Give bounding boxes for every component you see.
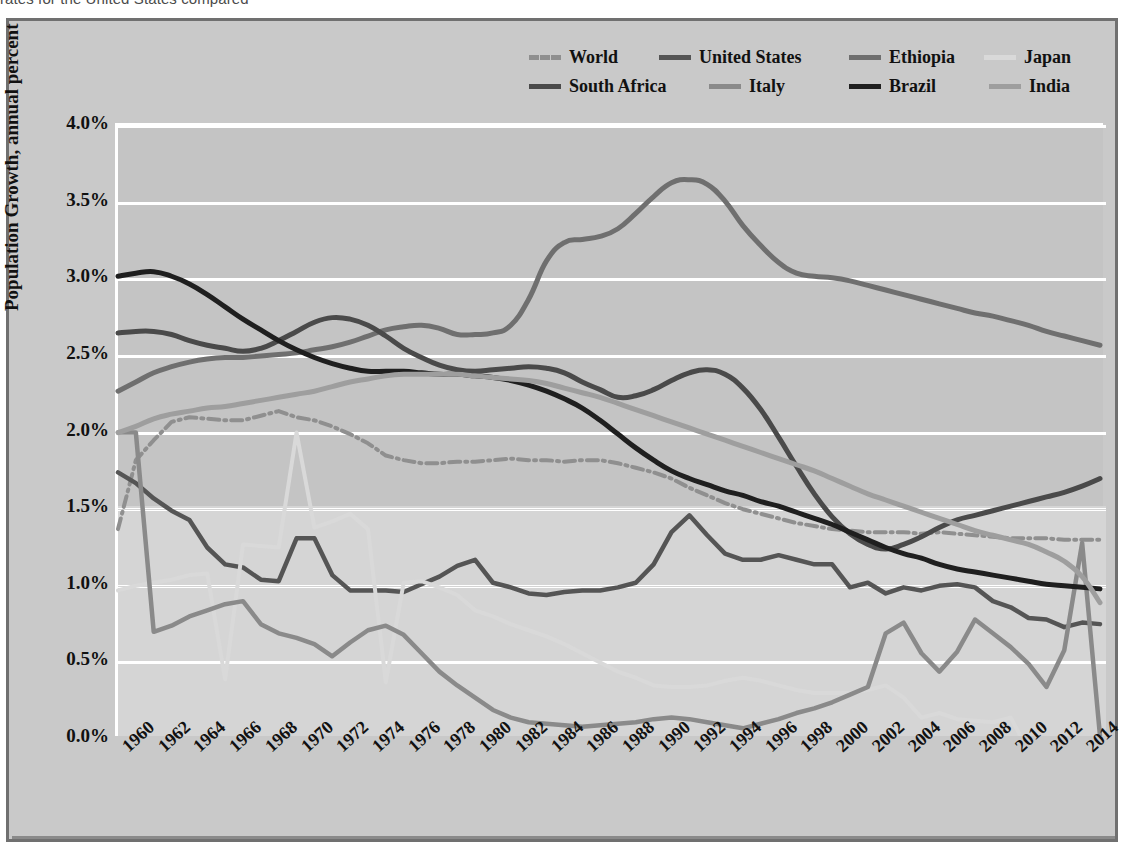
legend-label: United States — [699, 47, 802, 68]
y-tick-label: 0.5% — [66, 648, 109, 670]
line-series-united-states — [118, 472, 1100, 627]
chart-legend: WorldUnited StatesEthiopiaJapan South Af… — [529, 43, 1109, 101]
y-tick-label: 1.5% — [66, 495, 109, 517]
y-tick-label: 3.5% — [66, 189, 109, 211]
y-tick-label: 0.0% — [66, 725, 109, 747]
legend-label: Italy — [749, 76, 785, 97]
legend-swatch-icon — [529, 55, 561, 60]
legend-label: Ethiopia — [889, 47, 955, 68]
legend-label: India — [1029, 76, 1070, 97]
figure-caption-strip: rates for the United States compared — [0, 0, 1129, 16]
legend-swatch-icon — [659, 55, 691, 60]
plot-wrapper — [115, 123, 1103, 736]
legend-row-1: WorldUnited StatesEthiopiaJapan — [529, 43, 1109, 72]
legend-item-ethiopia[interactable]: Ethiopia — [849, 47, 984, 68]
axis-baseline — [12, 836, 1115, 839]
legend-item-south-africa[interactable]: South Africa — [529, 76, 709, 97]
y-tick-label: 1.0% — [66, 572, 109, 594]
y-tick-label: 3.0% — [66, 265, 109, 287]
legend-swatch-icon — [849, 84, 881, 89]
y-axis-title: Population Growth, annual percent — [1, 23, 23, 311]
line-series-brazil — [118, 271, 1100, 588]
series-lines — [115, 123, 1103, 736]
legend-swatch-icon — [529, 84, 561, 89]
line-series-ethiopia — [118, 180, 1100, 392]
legend-swatch-icon — [849, 55, 881, 60]
legend-item-world[interactable]: World — [529, 47, 659, 68]
legend-label: World — [569, 47, 618, 68]
line-series-south-africa — [118, 317, 1100, 549]
y-tick-label: 2.0% — [66, 419, 109, 441]
x-axis-ticks: 1960196219641966196819701972197419761978… — [115, 741, 1103, 837]
legend-swatch-icon — [984, 55, 1016, 60]
legend-row-2: South AfricaItalyBrazilIndia — [529, 72, 1109, 101]
legend-swatch-icon — [989, 84, 1021, 89]
y-tick-label: 2.5% — [66, 342, 109, 364]
legend-label: South Africa — [569, 76, 667, 97]
y-axis-ticks: 0.0%0.5%1.0%1.5%2.0%2.5%3.0%3.5%4.0% — [27, 123, 109, 736]
legend-label: Brazil — [889, 76, 936, 97]
y-tick-label: 4.0% — [66, 112, 109, 134]
legend-item-india[interactable]: India — [989, 76, 1099, 97]
legend-label: Japan — [1024, 47, 1071, 68]
chart-frame: WorldUnited StatesEthiopiaJapan South Af… — [6, 18, 1118, 842]
legend-item-brazil[interactable]: Brazil — [849, 76, 989, 97]
figure-caption: rates for the United States compared — [0, 0, 249, 7]
legend-item-japan[interactable]: Japan — [984, 47, 1094, 68]
legend-swatch-icon — [709, 84, 741, 89]
legend-item-united-states[interactable]: United States — [659, 47, 849, 68]
legend-item-italy[interactable]: Italy — [709, 76, 849, 97]
